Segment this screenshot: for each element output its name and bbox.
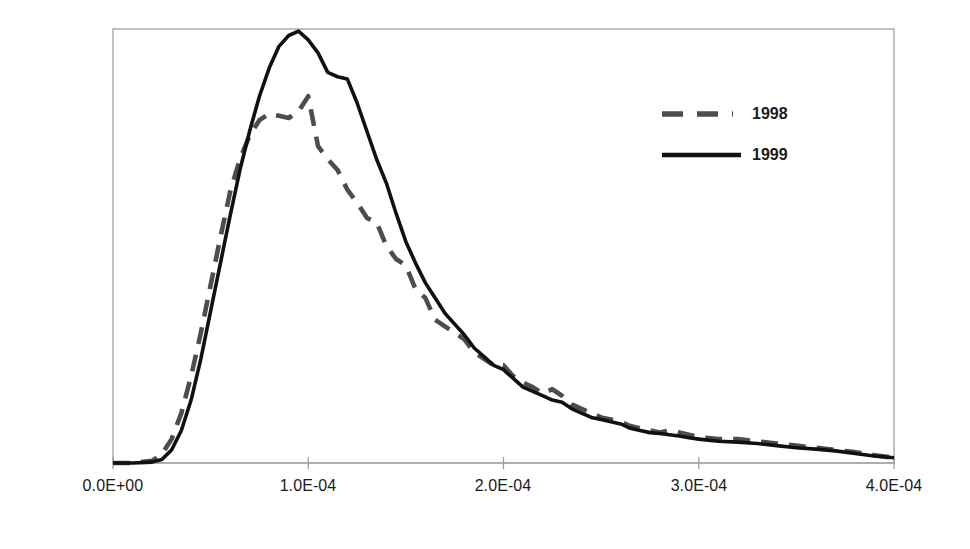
x-tick-label-0: 0.0E+00	[83, 477, 144, 495]
legend-label-1999: 1999	[752, 146, 788, 164]
plot-frame	[113, 29, 894, 463]
series-line-1999	[113, 31, 894, 463]
x-tick-label-1: 1.0E-04	[280, 477, 337, 495]
x-tick-label-2: 2.0E-04	[475, 477, 532, 495]
data-series-group	[113, 31, 894, 463]
legend-label-1998: 1998	[752, 105, 788, 123]
chart-figure: Likelihood 0.0E+00 1.0E-04 2.0E-04 3.0E-…	[0, 0, 970, 549]
plot-area	[0, 0, 970, 549]
legend-marks	[662, 114, 741, 155]
x-tick-label-3: 3.0E-04	[671, 477, 728, 495]
x-tick-label-4: 4.0E-04	[866, 477, 923, 495]
